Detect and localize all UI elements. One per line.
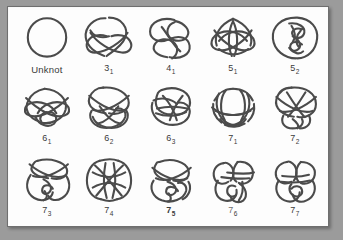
knot-cell-7-5: 75 xyxy=(140,153,202,225)
knot-label-7-4: 74 xyxy=(104,206,113,217)
knot-label-main: Unknot xyxy=(31,64,62,75)
knot-label-sub: 1 xyxy=(234,138,238,145)
knot-label-main: 6 xyxy=(166,133,171,143)
knot-label-sub: 6 xyxy=(234,210,238,217)
knot-cell-6-1: 61 xyxy=(16,81,78,153)
knot-cell-7-6: 76 xyxy=(202,153,264,225)
knot-label-main: 7 xyxy=(228,205,233,215)
knot-cell-3-1: 31 xyxy=(78,9,140,81)
knot-label-6-2: 62 xyxy=(104,134,113,145)
knot-label-7-1: 71 xyxy=(228,134,237,145)
knot-7-3-diagram xyxy=(16,155,78,205)
knot-label-unknot: Unknot xyxy=(31,65,63,77)
knot-label-sub: 3 xyxy=(172,138,176,145)
knot-label-main: 7 xyxy=(290,205,295,215)
knot-cell-6-3: 63 xyxy=(140,81,202,153)
knot-label-main: 7 xyxy=(228,133,233,143)
knot-grid: Unknot 31 xyxy=(16,9,324,225)
knot-7-2-diagram xyxy=(264,83,326,133)
knot-cell-6-2: 62 xyxy=(78,81,140,153)
knot-label-main: 7 xyxy=(166,205,171,215)
knot-label-sub: 2 xyxy=(296,68,300,75)
knot-label-sub: 3 xyxy=(48,210,52,217)
knot-label-7-3: 73 xyxy=(42,206,51,217)
knot-label-5-1: 51 xyxy=(228,64,237,75)
knot-7-6-diagram xyxy=(202,155,264,205)
unknot-diagram xyxy=(16,13,78,63)
knot-label-main: 4 xyxy=(166,63,171,73)
knot-6-1-diagram xyxy=(16,83,78,133)
knot-label-sub: 2 xyxy=(296,138,300,145)
knot-7-1-diagram xyxy=(202,83,264,133)
knot-cell-7-3: 73 xyxy=(16,153,78,225)
knot-label-main: 6 xyxy=(104,133,109,143)
knot-label-main: 5 xyxy=(290,63,295,73)
knot-label-7-7: 77 xyxy=(290,206,299,217)
knot-cell-7-7: 77 xyxy=(264,153,326,225)
cinquefoil-5-1-diagram xyxy=(202,13,264,63)
figure-eight-4-1-diagram xyxy=(140,13,202,63)
knot-label-3-1: 31 xyxy=(104,64,113,75)
knot-label-7-5: 75 xyxy=(166,206,175,217)
knot-label-5-2: 52 xyxy=(290,64,299,75)
trefoil-3-1-diagram xyxy=(78,13,140,63)
knot-label-7-2: 72 xyxy=(290,134,299,145)
knot-cell-5-2: 52 xyxy=(264,9,326,81)
knot-label-sub: 1 xyxy=(234,68,238,75)
knot-7-7-diagram xyxy=(264,155,326,205)
knot-6-2-diagram xyxy=(78,83,140,133)
knot-cell-4-1: 41 xyxy=(140,9,202,81)
knot-label-6-1: 61 xyxy=(42,134,51,145)
knot-cell-7-4: 74 xyxy=(78,153,140,225)
figure-paper: Unknot 31 xyxy=(7,6,329,227)
knot-cell-unknot: Unknot xyxy=(16,9,78,81)
knot-label-main: 7 xyxy=(42,205,47,215)
knot-table-figure: Unknot 31 xyxy=(0,0,343,240)
knot-label-4-1: 41 xyxy=(166,64,175,75)
knot-7-4-diagram xyxy=(78,155,140,205)
knot-7-5-diagram xyxy=(140,155,202,205)
knot-label-main: 3 xyxy=(104,63,109,73)
knot-5-2-diagram xyxy=(264,13,326,63)
knot-cell-7-2: 72 xyxy=(264,81,326,153)
knot-6-3-diagram xyxy=(140,83,202,133)
knot-label-7-6: 76 xyxy=(228,206,237,217)
knot-label-sub: 2 xyxy=(110,138,114,145)
knot-label-main: 6 xyxy=(42,133,47,143)
knot-cell-5-1: 51 xyxy=(202,9,264,81)
knot-label-main: 7 xyxy=(104,205,109,215)
knot-label-main: 7 xyxy=(290,133,295,143)
knot-cell-7-1: 71 xyxy=(202,81,264,153)
knot-label-main: 5 xyxy=(228,63,233,73)
knot-label-sub: 4 xyxy=(110,210,114,217)
knot-label-sub: 1 xyxy=(172,68,176,75)
knot-label-sub: 7 xyxy=(296,210,300,217)
knot-label-sub: 1 xyxy=(48,138,52,145)
knot-label-sub: 5 xyxy=(172,210,176,217)
knot-label-sub: 1 xyxy=(110,68,114,75)
knot-label-6-3: 63 xyxy=(166,134,175,145)
